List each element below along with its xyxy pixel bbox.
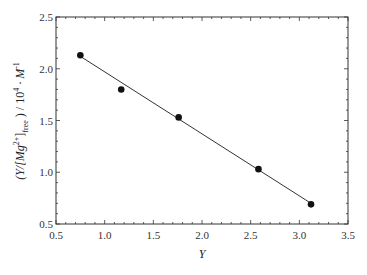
fit-line	[80, 56, 311, 203]
y-tick-label: 2.5	[39, 11, 53, 23]
x-tick-label: 2.5	[244, 229, 258, 241]
y-tick-label: 2.0	[39, 63, 53, 75]
data-point	[77, 52, 84, 59]
plot-frame	[56, 17, 348, 224]
y-tick-label: 1.5	[39, 115, 53, 127]
plot-axes: 0.51.01.52.02.53.03.50.51.01.52.02.5	[39, 11, 355, 241]
y-tick-label: 0.5	[39, 218, 53, 230]
x-tick-label: 3.5	[341, 229, 355, 241]
chart-canvas: 0.51.01.52.02.53.03.50.51.01.52.02.5 Y (…	[0, 0, 367, 275]
y-axis-label: (Y/[Mg2+]free ) / 104 · M-1	[12, 62, 30, 180]
x-tick-label: 0.5	[49, 229, 63, 241]
svg-text:(Y/[Mg2+]free ) / 104 · M-1: (Y/[Mg2+]free ) / 104 · M-1	[12, 62, 30, 180]
x-tick-label: 2.0	[195, 229, 209, 241]
data-point	[255, 166, 262, 173]
x-axis-label: Y	[199, 247, 207, 261]
data-point	[118, 86, 125, 93]
data-point	[175, 114, 182, 121]
data-point	[308, 201, 315, 208]
y-tick-label: 1.0	[39, 166, 53, 178]
x-tick-label: 1.0	[98, 229, 112, 241]
plot-series	[77, 52, 314, 208]
x-tick-label: 3.0	[292, 229, 306, 241]
x-tick-label: 1.5	[146, 229, 160, 241]
